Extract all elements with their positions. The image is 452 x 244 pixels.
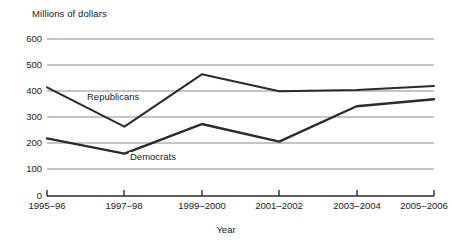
x-axis xyxy=(47,190,434,196)
line-chart: Millions of dollars 600 500 400 300 200 … xyxy=(0,0,452,244)
x-tick-label-3: 2001–2002 xyxy=(255,201,303,211)
series-label-republicans: Republicans xyxy=(86,92,140,102)
x-tick-label-4: 2003–2004 xyxy=(333,201,381,211)
plot-area xyxy=(0,0,452,244)
x-tick-label-1: 1997–98 xyxy=(106,201,143,211)
x-tick-label-2: 1999–2000 xyxy=(178,201,226,211)
x-axis-title: Year xyxy=(0,224,452,235)
x-tick-label-0: 1995–96 xyxy=(29,201,66,211)
x-tick-label-5: 2005–2006 xyxy=(400,201,448,211)
series-label-democrats: Democrats xyxy=(129,152,177,162)
series-line-democrats xyxy=(47,99,434,153)
